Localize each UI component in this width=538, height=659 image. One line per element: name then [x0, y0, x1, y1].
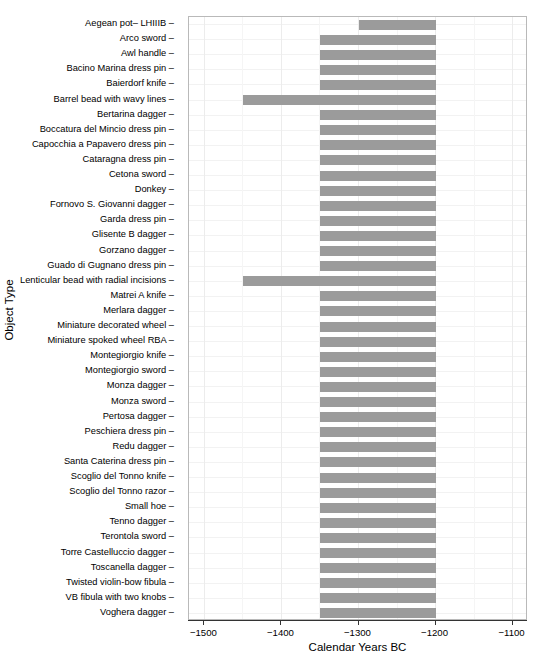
- x-axis-tick-mark: [435, 620, 436, 625]
- x-axis-tick-mark: [280, 620, 281, 625]
- y-axis-tick-label: Merlara dagger –: [103, 303, 174, 318]
- bar: [320, 488, 436, 498]
- x-axis-title: Calendar Years BC: [188, 641, 527, 653]
- y-axis-tick-label: Peschiera dress pin –: [85, 424, 174, 439]
- grid-line-vertical-minor: [242, 17, 243, 619]
- bar: [320, 201, 436, 211]
- y-axis-tick-label: Miniature decorated wheel –: [57, 318, 174, 333]
- y-axis-tick-label: Donkey –: [135, 182, 174, 197]
- bar: [320, 457, 436, 467]
- y-axis-tick-label: Twisted violin-bow fibula –: [66, 575, 174, 590]
- bar: [320, 518, 436, 528]
- y-axis-tick-label: Guado di Gugnano dress pin –: [47, 258, 174, 273]
- bar: [320, 427, 436, 437]
- y-axis-tick-label: Barrel bead with wavy lines –: [54, 92, 174, 107]
- bar: [320, 382, 436, 392]
- y-axis-tick-label: Montegiorgio knife –: [90, 348, 174, 363]
- horizontal-bar-chart: Object Type Aegean pot– LHIIIB –Arco swo…: [0, 0, 538, 659]
- bar: [320, 578, 436, 588]
- y-axis-tick-label: Fornovo S. Giovanni dagger –: [50, 197, 174, 212]
- grid-line-vertical: [512, 17, 513, 619]
- y-axis-tick-label: Pertosa dagger –: [103, 409, 174, 424]
- bar: [320, 367, 436, 377]
- grid-line-vertical-minor: [319, 17, 320, 619]
- y-axis-tick-label: Boccatura del Mincio dress pin –: [40, 122, 174, 137]
- y-axis-tick-label: Toscanella dagger –: [91, 560, 174, 575]
- bar: [243, 276, 436, 286]
- y-axis-tick-label: Scoglio del Tonno razor –: [69, 484, 174, 499]
- bar: [320, 216, 436, 226]
- y-axis-tick-label: VB fibula with two knobs –: [65, 590, 174, 605]
- grid-line-vertical-minor: [474, 17, 475, 619]
- y-axis-tick-label: Tenno dagger –: [109, 514, 174, 529]
- x-axis-tick-label: −1400: [250, 627, 310, 638]
- y-axis-tick-label: Monza dagger –: [107, 378, 174, 393]
- bar: [320, 50, 436, 60]
- bar: [320, 322, 436, 332]
- y-axis-tick-label: Awl handle –: [121, 46, 174, 61]
- bar: [320, 593, 436, 603]
- y-axis-tick-label: Bacino Marina dress pin –: [67, 61, 175, 76]
- grid-line-vertical: [358, 17, 359, 619]
- bar: [320, 65, 436, 75]
- bar: [320, 548, 436, 558]
- y-axis-tick-label: Glisente B dagger –: [92, 227, 174, 242]
- bar: [320, 246, 436, 256]
- x-axis-tick-label: −1200: [405, 627, 465, 638]
- bar: [320, 473, 436, 483]
- y-axis-tick-label: Capocchia a Papavero dress pin –: [32, 137, 174, 152]
- y-axis-tick-label: Torre Castelluccio dagger –: [61, 545, 174, 560]
- y-axis-tick-label: Scoglio del Tonno knife –: [71, 469, 174, 484]
- y-axis-tick-label: Cataragna dress pin –: [83, 152, 174, 167]
- y-axis-tick-label: Monza sword –: [111, 394, 174, 409]
- bar: [359, 20, 436, 30]
- plot-panel: [188, 16, 527, 620]
- bar: [243, 95, 436, 105]
- bar: [320, 352, 436, 362]
- y-axis-tick-label: Montegiorgio sword –: [85, 363, 174, 378]
- bar: [320, 155, 436, 165]
- bar: [320, 503, 436, 513]
- bar: [320, 171, 436, 181]
- bar: [320, 397, 436, 407]
- bar: [320, 261, 436, 271]
- x-axis-tick-mark: [512, 620, 513, 625]
- grid-line-vertical-minor: [397, 17, 398, 619]
- y-axis-tick-label: Cetona sword –: [109, 167, 174, 182]
- y-axis-title: Object Type: [0, 0, 18, 620]
- y-axis-tick-label: Small hoe –: [125, 499, 174, 514]
- x-axis-tick-label: −1100: [482, 627, 538, 638]
- bar: [320, 563, 436, 573]
- bar: [320, 412, 436, 422]
- x-axis-tick-mark: [203, 620, 204, 625]
- bar: [320, 186, 436, 196]
- x-axis-tick-label: −1300: [328, 627, 388, 638]
- y-axis-tick-label: Gorzano dagger –: [99, 243, 174, 258]
- bar: [320, 291, 436, 301]
- y-axis-tick-label: Lenticular bead with radial incisions –: [20, 273, 174, 288]
- y-axis-tick-label: Matrei A knife –: [110, 288, 174, 303]
- grid-line-vertical: [435, 17, 436, 619]
- y-axis-tick-label: Redu dagger –: [112, 439, 174, 454]
- y-axis-tick-label: Baierdorf knife –: [106, 76, 174, 91]
- x-axis-tick-mark: [358, 620, 359, 625]
- x-axis-tick-label: −1500: [173, 627, 233, 638]
- bar: [320, 140, 436, 150]
- bar: [320, 231, 436, 241]
- bar: [320, 125, 436, 135]
- bar: [320, 80, 436, 90]
- y-axis-tick-label: Voghera dagger –: [100, 605, 174, 620]
- y-axis-tick-label: Santa Caterina dress pin –: [64, 454, 174, 469]
- y-axis-tick-labels: Aegean pot– LHIIIB –Arco sword –Awl hand…: [18, 16, 181, 620]
- y-axis-title-label: Object Type: [3, 279, 15, 340]
- grid-line-vertical: [204, 17, 205, 619]
- bar: [320, 35, 436, 45]
- y-axis-tick-label: Aegean pot– LHIIIB –: [85, 16, 174, 31]
- bar: [320, 306, 436, 316]
- bar: [320, 442, 436, 452]
- bar: [320, 533, 436, 543]
- y-axis-tick-label: Garda dress pin –: [100, 212, 174, 227]
- bar: [320, 110, 436, 120]
- y-axis-tick-label: Miniature spoked wheel RBA –: [47, 333, 174, 348]
- y-axis-tick-label: Arco sword –: [120, 31, 174, 46]
